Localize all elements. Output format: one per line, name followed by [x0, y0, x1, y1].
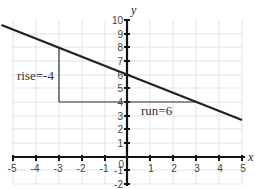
- svg-text:10: 10: [112, 15, 124, 26]
- svg-text:-5: -5: [8, 163, 17, 174]
- svg-text:5: 5: [240, 163, 246, 174]
- svg-text:8: 8: [117, 42, 123, 53]
- origin-label: 0: [118, 159, 124, 170]
- y-axis-label: y: [130, 3, 137, 17]
- slope-chart: -5 -4 -3 -2 -1 1 2 3 4 5 10 9 8 7 6 5 4 …: [0, 0, 255, 189]
- svg-text:2: 2: [117, 124, 123, 135]
- svg-text:9: 9: [117, 29, 123, 40]
- svg-text:-1: -1: [100, 163, 109, 174]
- svg-text:-3: -3: [54, 163, 63, 174]
- run-label: run=6: [141, 103, 173, 118]
- svg-text:-2: -2: [77, 163, 86, 174]
- svg-text:-2: -2: [114, 179, 123, 189]
- svg-text:1: 1: [117, 138, 123, 149]
- rise-label: rise=-4: [17, 68, 54, 83]
- svg-text:3: 3: [117, 111, 123, 122]
- svg-text:2: 2: [171, 163, 177, 174]
- svg-text:4: 4: [217, 163, 223, 174]
- svg-text:-4: -4: [31, 163, 40, 174]
- svg-text:5: 5: [117, 83, 123, 94]
- svg-text:1: 1: [148, 163, 154, 174]
- x-axis-label: x: [247, 150, 254, 164]
- svg-text:3: 3: [194, 163, 200, 174]
- svg-text:7: 7: [117, 56, 123, 67]
